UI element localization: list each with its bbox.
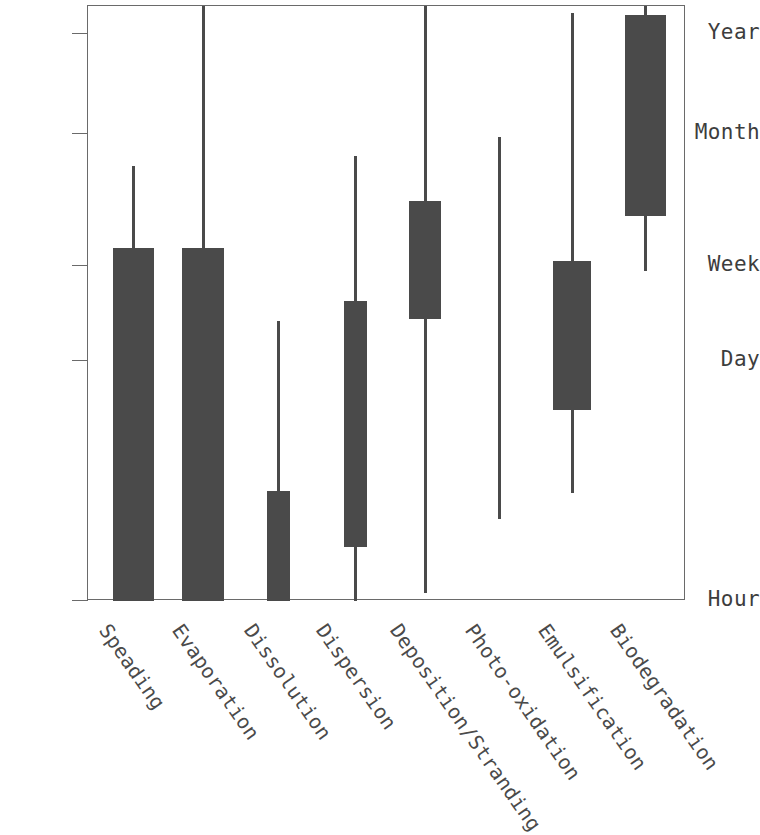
y-tick-label: Day — [692, 349, 760, 370]
x-tick-label: Speading — [95, 620, 170, 713]
box-emulsification — [553, 261, 591, 410]
box-evaporation — [182, 248, 224, 601]
y-tick-mark — [72, 600, 88, 601]
box-biodegradation — [625, 15, 666, 216]
whisker-emulsification — [571, 13, 574, 493]
box-speading — [113, 248, 154, 601]
box-dispersion — [344, 301, 367, 547]
y-tick-mark — [72, 33, 88, 34]
y-tick-label: Month — [692, 122, 760, 143]
box-dissolution — [267, 491, 290, 601]
y-tick-label: Year — [692, 22, 760, 43]
box-deposition-stranding — [409, 201, 441, 319]
y-tick-label: Week — [692, 254, 760, 275]
y-tick-mark — [72, 133, 88, 134]
plot-area — [87, 5, 685, 600]
y-tick-label: Hour — [692, 589, 760, 610]
whisker-photo-oxidation — [498, 137, 501, 519]
y-tick-mark — [72, 265, 88, 266]
x-tick-label: Deposition/Stranding — [386, 620, 546, 835]
y-tick-mark — [72, 360, 88, 361]
